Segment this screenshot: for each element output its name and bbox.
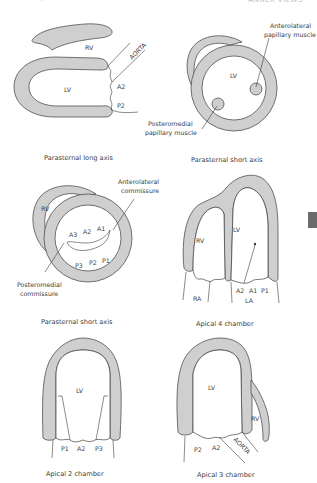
label-posteromedial-2: commissure (20, 290, 58, 297)
label-rv: RV (196, 237, 205, 244)
label-aorta: AORTA (128, 41, 148, 61)
label-lv: LV (233, 226, 241, 233)
label-a2: A2 (83, 228, 91, 235)
lv-cavity (55, 205, 121, 271)
label-a1: A1 (97, 225, 105, 232)
label-posteromedial-2: papillary muscle (145, 129, 197, 137)
label-a2: A2 (117, 83, 125, 90)
label-lv: LV (64, 86, 72, 93)
label-rv: RV (41, 205, 50, 212)
label-a3: A3 (69, 231, 77, 238)
label-p3: P3 (75, 262, 83, 269)
label-anterolateral-1: Anterolateral (270, 22, 311, 29)
label-rv: RV (85, 44, 94, 51)
label-p2: P2 (89, 259, 97, 266)
label-p2: P2 (117, 102, 125, 109)
atrium-outline (184, 436, 185, 462)
label-ra: RA (193, 295, 202, 302)
label-rv: RV (251, 415, 260, 422)
label-lv: LV (76, 387, 84, 394)
label-p1: P1 (102, 257, 110, 264)
caption-parasternal-short-axis: Parasternal short axis (191, 156, 263, 164)
label-a1: A1 (249, 287, 257, 294)
panel-parasternal-short-axis-papillary: LV Anterolateral papillary muscle Poster… (145, 22, 316, 164)
panel-parasternal-long-axis: RV AORTA LV A2 P2 Parasternal long axis (14, 24, 148, 162)
panel-apical-2-chamber: LV P1 A2 P3 Apical 2 chamber (43, 338, 122, 478)
posteromedial-papillary-muscle (212, 98, 224, 110)
caption-apical-3-chamber: Apical 3 chamber (197, 471, 255, 479)
caption-apical-2-chamber: Apical 2 chamber (46, 470, 104, 478)
label-p1: P1 (61, 445, 69, 452)
caption-parasternal-short-axis-2: Parasternal short axis (41, 318, 113, 326)
label-a2: A2 (212, 444, 220, 451)
label-anterolateral-1: Anterolateral (118, 178, 159, 185)
rv-wall (32, 24, 112, 50)
leaflet-tip (254, 243, 256, 245)
label-la: LA (245, 297, 254, 304)
label-p2: P2 (194, 446, 202, 453)
lv-cavity (56, 350, 110, 442)
label-posteromedial-1: Posteromedial (17, 281, 62, 288)
lv-cavity (231, 188, 268, 283)
label-posteromedial-1: Posteromedial (148, 120, 193, 127)
caption-parasternal-long-axis: Parasternal long axis (44, 154, 113, 162)
echo-views-figure: RV AORTA LV A2 P2 Parasternal long axis … (0, 0, 317, 483)
caption-apical-4-chamber: Apical 4 chamber (196, 320, 254, 328)
label-aorta: AORTA (232, 436, 252, 456)
label-lv: LV (208, 384, 216, 391)
label-a2: A2 (77, 445, 85, 452)
panel-apical-4-chamber: LV RV RA A2 A1 P1 LA Apical 4 chamber (183, 175, 279, 328)
panel-apical-3-chamber: LV RV P2 A2 AORTA Apical 3 chamber (177, 338, 269, 479)
label-lv: LV (230, 72, 238, 79)
label-a2: A2 (236, 287, 244, 294)
label-anterolateral-2: papillary muscle (264, 31, 316, 39)
label-anterolateral-2: commissure (121, 187, 159, 194)
anterolateral-papillary-muscle (250, 83, 262, 95)
label-p3: P3 (95, 445, 103, 452)
lv-cavity (193, 350, 242, 439)
rv-wall (251, 380, 269, 441)
panel-parasternal-short-axis-mitral: RV A3 A2 A1 P3 P2 P1 Anterolateral commi… (17, 178, 159, 326)
label-p1: P1 (261, 287, 269, 294)
